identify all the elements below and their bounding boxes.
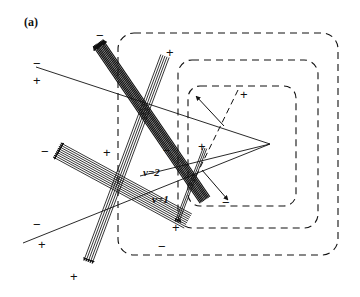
panel-label: (a) [24,16,38,28]
beam-ray [84,54,161,260]
beam-ray [55,154,186,225]
dashed-regions-layer [118,33,338,255]
figure-panel-a: (a) −+−++−+−+−−++−+ ν=2ν=1 [0,0,360,297]
sign-label-minus: − [33,218,41,231]
sign-label-plus: + [198,140,206,153]
sign-label-minus: − [222,196,230,209]
beam-ray [93,46,200,203]
order-label-nu2: ν=2 [143,167,160,178]
beam-bundles-layer [53,40,210,264]
sign-label-plus: + [166,46,174,59]
order-label-nu1: ν=1 [152,194,169,205]
sign-label-minus: − [41,145,49,158]
sign-label-minus: − [33,57,41,70]
beam-ray [56,152,187,223]
outer-dashed-region [118,33,338,255]
sign-label-minus: − [163,144,171,157]
sign-label-plus: + [33,74,41,87]
sign-label-plus: + [38,238,46,251]
beam-ray [57,150,188,221]
sign-label-minus: − [158,240,166,253]
sign-label-plus: + [172,221,180,234]
sign-label-plus: + [70,270,78,283]
figure-canvas [0,0,360,297]
sign-label-plus: + [103,146,111,159]
sign-label-plus: + [240,88,248,101]
sign-label-minus: − [96,29,104,42]
beam-ray [96,45,203,202]
